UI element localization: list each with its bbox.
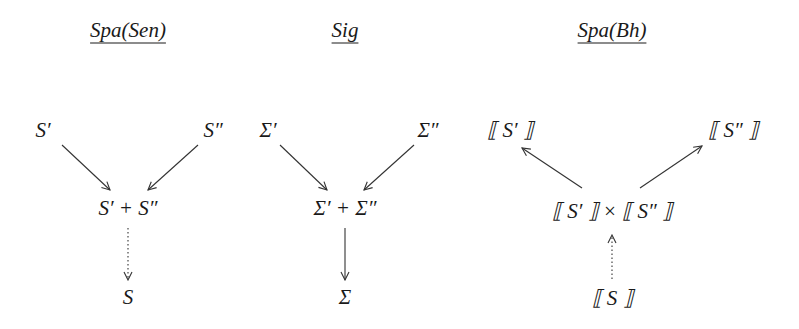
arrow-sen-right-to-sum [148, 145, 198, 190]
diagram-title-spa-sen: Spa(Sen) [90, 20, 166, 41]
node-sem-s-prime: ⟦ S′ ⟧ [487, 120, 533, 141]
arrow-layer [0, 0, 799, 329]
node-s: S [123, 287, 134, 308]
node-sigma: Σ [339, 287, 351, 308]
arrow-sig-left-to-sum [280, 145, 327, 190]
node-sigma-double-prime: Σ″ [417, 120, 438, 141]
node-sigma-sum: Σ′ + Σ″ [314, 198, 377, 219]
diagram-title-sig: Sig [332, 20, 359, 41]
arrow-bh-product-to-left [522, 148, 582, 188]
arrow-sen-left-to-sum [62, 145, 110, 190]
node-s-double-prime: S″ [203, 120, 222, 141]
node-sigma-prime: Σ′ [259, 120, 276, 141]
node-sem-s-double-prime: ⟦ S″ ⟧ [708, 120, 758, 141]
node-s-sum: S′ + S″ [98, 198, 157, 219]
diagram-title-spa-bh: Spa(Bh) [578, 20, 647, 41]
arrow-sig-right-to-sum [364, 145, 414, 190]
node-s-prime: S′ [35, 120, 50, 141]
arrow-bh-product-to-right [640, 146, 702, 188]
node-sem-s: ⟦ S ⟧ [592, 288, 633, 309]
node-sem-product: ⟦ S′ ⟧ × ⟦ S″ ⟧ [552, 201, 672, 222]
